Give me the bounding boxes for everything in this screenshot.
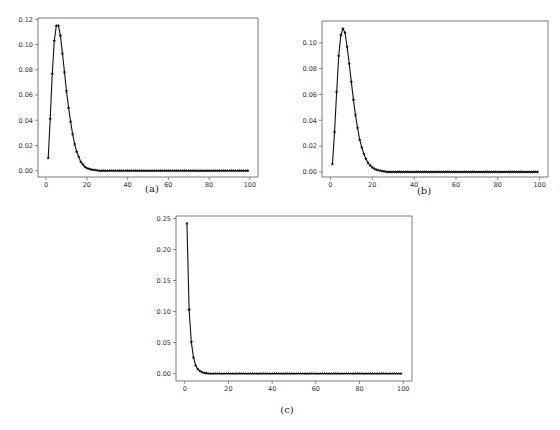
series-line (187, 223, 401, 373)
y-tick-label: 0.05 (157, 339, 171, 347)
x-tick-label: 0 (183, 385, 187, 393)
y-tick-label: 0.10 (157, 308, 171, 316)
x-tick-label: 20 (224, 385, 232, 393)
x-tick-label: 100 (397, 385, 409, 393)
y-tick-label: 0.00 (157, 370, 171, 378)
series-markers (185, 222, 403, 376)
chart-panel-c: 0204060801000.000.050.100.150.200.25 (c) (0, 0, 560, 430)
x-tick-label: 40 (268, 385, 276, 393)
y-tick-label: 0.20 (157, 246, 171, 254)
x-tick-label: 80 (355, 385, 363, 393)
chart-c-plot: 0204060801000.000.050.100.150.200.25 (0, 0, 560, 430)
y-tick-label: 0.25 (157, 215, 171, 223)
y-tick-label: 0.15 (157, 277, 171, 285)
x-tick-label: 60 (312, 385, 320, 393)
caption-c: (c) (267, 404, 307, 415)
axes-frame (176, 216, 412, 381)
